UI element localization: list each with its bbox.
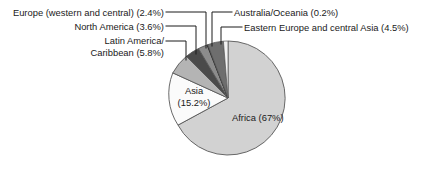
slice-label-asia: Asia (15.2%) [168,85,220,108]
slice-label-latin-america-line1: Latin America/ [91,35,164,47]
slice-label-latin-america-line2: Caribbean (5.8%) [91,47,164,59]
slice-label-asia-line1: Asia [168,85,220,97]
slice-label-australia: Australia/Oceania (0.2%) [234,7,338,19]
slice-label-north-america: North America (3.6%) [74,21,164,33]
slice-label-eastern-europe: Eastern Europe and central Asia (4.5%) [244,22,409,34]
slice-label-africa: Africa (67%) [232,112,284,123]
slice-label-latin-america: Latin America/ Caribbean (5.8%) [91,35,164,59]
leader-line-latin-america [166,41,186,60]
pie-chart-figure: Europe (western and central) (2.4%) Nort… [0,0,432,169]
slice-label-asia-line2: (15.2%) [168,97,220,109]
leader-line-north-america [166,26,196,54]
slice-label-europe: Europe (western and central) (2.4%) [13,7,164,19]
